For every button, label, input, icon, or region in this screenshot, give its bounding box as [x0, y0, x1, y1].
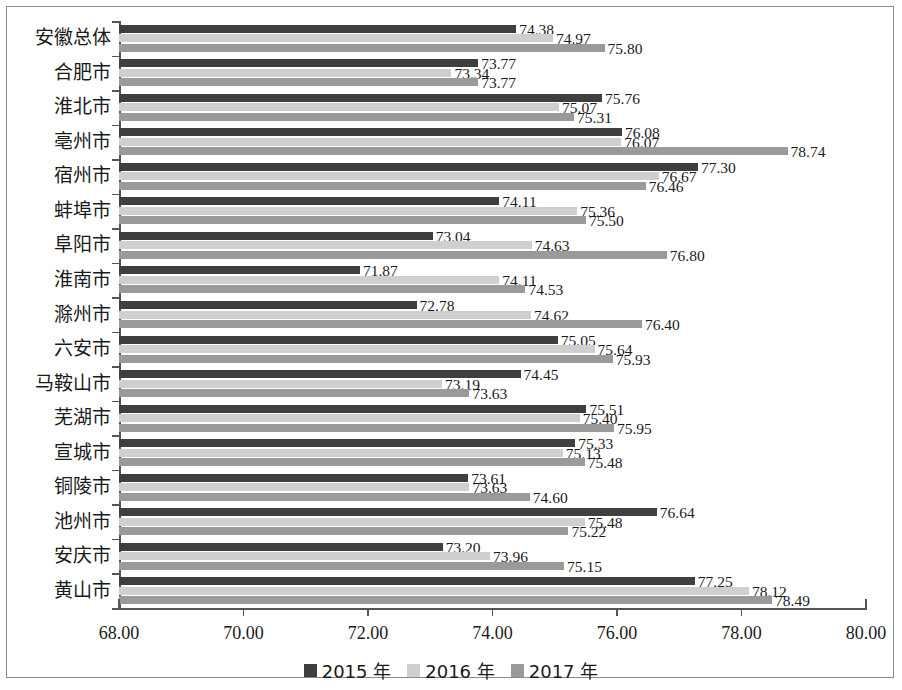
category-label: 铜陵市 [54, 477, 111, 496]
bar-value-label: 75.15 [567, 559, 602, 575]
y-axis-tick [112, 297, 119, 299]
legend-swatch-icon [304, 664, 317, 677]
bar-value-label: 73.77 [481, 75, 516, 91]
x-axis-tick [741, 608, 743, 616]
bar [119, 311, 531, 319]
y-axis-tick [112, 366, 119, 368]
x-axis-tick [367, 608, 369, 616]
bar-value-label: 76.80 [670, 248, 705, 264]
bar [119, 285, 525, 293]
bar [119, 128, 622, 136]
bar [119, 103, 559, 111]
bar [119, 251, 667, 259]
bar-value-label: 78.49 [775, 593, 810, 609]
bar-value-label: 77.30 [701, 160, 736, 176]
category-label: 池州市 [54, 512, 111, 531]
bar [119, 276, 499, 284]
legend-swatch-icon [511, 664, 524, 677]
y-axis-tick [112, 125, 119, 127]
bar [119, 163, 698, 171]
legend-item: 2017 年 [511, 657, 599, 683]
chart-frame: 安徽总体合肥市淮北市亳州市宿州市蚌埠市阜阳市淮南市滁州市六安市马鞍山市芜湖市宣城… [6, 6, 894, 678]
y-axis-tick [112, 263, 119, 265]
bar [119, 587, 749, 595]
bar-value-label: 74.60 [533, 490, 568, 506]
x-axis-tick-label: 72.00 [348, 623, 389, 644]
bar-value-label: 73.63 [472, 386, 507, 402]
category-label: 淮北市 [54, 97, 111, 116]
bar-value-label: 75.50 [589, 213, 624, 229]
bar [119, 232, 433, 240]
x-axis-tick [243, 608, 245, 616]
bar [119, 405, 586, 413]
bar-value-label: 78.74 [791, 144, 826, 160]
y-axis-tick [112, 470, 119, 472]
legend-item: 2016 年 [407, 657, 495, 683]
bar [119, 25, 516, 33]
legend-label: 2017 年 [529, 657, 599, 683]
bar [119, 518, 585, 526]
bar [119, 69, 451, 77]
bar [119, 172, 659, 180]
bar [119, 414, 580, 422]
y-axis-tick [112, 332, 119, 334]
category-label: 阜阳市 [54, 235, 111, 254]
bar [119, 59, 478, 67]
bar-value-label: 75.31 [577, 110, 612, 126]
bar-value-label: 75.80 [608, 41, 643, 57]
bar-value-label: 75.22 [571, 524, 606, 540]
category-label: 安庆市 [54, 546, 111, 565]
bar [119, 216, 586, 224]
x-axis-tick-label: 78.00 [721, 623, 762, 644]
category-label: 淮南市 [54, 270, 111, 289]
category-label: 安徽总体 [35, 28, 111, 47]
bar [119, 424, 614, 432]
category-label: 芜湖市 [54, 408, 111, 427]
bar [119, 147, 788, 155]
bar [119, 439, 575, 447]
bar-value-label: 75.93 [616, 352, 651, 368]
y-axis-tick [112, 21, 119, 23]
category-axis-labels: 安徽总体合肥市淮北市亳州市宿州市蚌埠市阜阳市淮南市滁州市六安市马鞍山市芜湖市宣城… [7, 21, 111, 608]
y-axis-tick [112, 401, 119, 403]
bar [119, 241, 532, 249]
bar [119, 113, 574, 121]
bar [119, 138, 621, 146]
category-label: 黄山市 [54, 581, 111, 600]
bar [119, 380, 442, 388]
bar-value-label: 74.53 [528, 282, 563, 298]
bar [119, 449, 563, 457]
bar [119, 182, 646, 190]
y-axis-tick [112, 90, 119, 92]
bar [119, 301, 417, 309]
chart-legend: 2015 年2016 年2017 年 [7, 657, 895, 683]
bar-value-label: 76.46 [649, 179, 684, 195]
bar [119, 355, 613, 363]
bar-value-label: 76.40 [645, 317, 680, 333]
bar-value-label: 75.48 [588, 455, 623, 471]
bar [119, 458, 585, 466]
legend-item: 2015 年 [304, 657, 392, 683]
x-axis-tick-label: 70.00 [223, 623, 264, 644]
category-label: 合肥市 [54, 63, 111, 82]
bar [119, 552, 490, 560]
bar [119, 543, 443, 551]
bar [119, 94, 602, 102]
y-axis-tick [112, 573, 119, 575]
bar [119, 266, 360, 274]
category-label: 滁州市 [54, 305, 111, 324]
bar-value-label: 75.95 [617, 421, 652, 437]
y-axis-tick [112, 435, 119, 437]
y-axis-tick [112, 159, 119, 161]
bar-value-label: 76.64 [660, 505, 695, 521]
bar [119, 527, 568, 535]
y-axis-tick [112, 504, 119, 506]
bar [119, 474, 468, 482]
x-axis-tick-label: 74.00 [472, 623, 513, 644]
bar [119, 345, 595, 353]
x-axis-tick [616, 608, 618, 616]
x-axis-tick [492, 608, 494, 616]
x-axis-tick [865, 599, 867, 609]
legend-label: 2015 年 [322, 657, 392, 683]
bar [119, 320, 642, 328]
